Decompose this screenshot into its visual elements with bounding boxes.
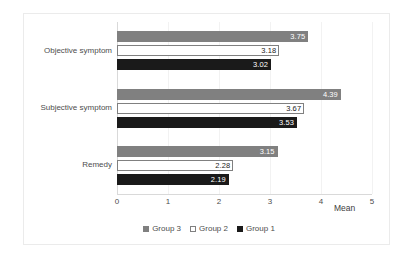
bar-group-2[interactable] — [117, 45, 279, 56]
x-tick-label: 1 — [166, 197, 170, 206]
bar-chart-figure: Objective symptomSubjective symptomRemed… — [0, 0, 418, 260]
bar-group-3[interactable] — [117, 31, 308, 42]
bar-row: 2.28 — [117, 160, 372, 171]
x-axis-line — [117, 194, 372, 195]
bar-group: 3.152.282.19 — [117, 146, 372, 185]
bar-row: 3.15 — [117, 146, 372, 157]
bar-value-label: 2.19 — [206, 174, 226, 185]
category-label: Remedy — [4, 160, 112, 169]
x-tick-label: 3 — [268, 197, 272, 206]
bar-value-label: 4.39 — [318, 89, 338, 100]
bar-group: 4.393.673.53 — [117, 89, 372, 128]
bar-group-1[interactable] — [117, 117, 297, 128]
category-axis-labels: Objective symptomSubjective symptomRemed… — [0, 22, 112, 194]
x-tick-label: 0 — [115, 197, 119, 206]
bar-value-label: 3.53 — [274, 117, 294, 128]
legend-item-group-3[interactable]: Group 3 — [143, 224, 181, 233]
bar-row: 3.53 — [117, 117, 372, 128]
bar-group-2[interactable] — [117, 103, 304, 114]
bar-value-label: 2.28 — [210, 160, 230, 171]
bar-group-3[interactable] — [117, 89, 341, 100]
legend-label: Group 2 — [199, 224, 228, 233]
x-tick-label: 2 — [217, 197, 221, 206]
gridline — [372, 22, 373, 194]
bar-row: 3.02 — [117, 59, 372, 70]
chart-legend: Group 3Group 2Group 1 — [0, 224, 418, 233]
bar-value-label: 3.75 — [285, 31, 305, 42]
category-label: Objective symptom — [4, 46, 112, 55]
legend-item-group-1[interactable]: Group 1 — [237, 224, 275, 233]
bar-row: 3.75 — [117, 31, 372, 42]
legend-item-group-2[interactable]: Group 2 — [190, 224, 228, 233]
black-square-icon — [237, 226, 243, 232]
x-axis-title: Mean — [334, 203, 355, 213]
bar-row: 3.67 — [117, 103, 372, 114]
white-square-icon — [190, 226, 196, 232]
category-label: Subjective symptom — [4, 103, 112, 112]
gray-square-icon — [143, 226, 149, 232]
bar-value-label: 3.15 — [255, 146, 275, 157]
x-tick-label: 4 — [319, 197, 323, 206]
bar-group-3[interactable] — [117, 146, 278, 157]
x-tick-label: 5 — [370, 197, 374, 206]
legend-label: Group 1 — [246, 224, 275, 233]
bar-value-label: 3.02 — [248, 59, 268, 70]
legend-label: Group 3 — [152, 224, 181, 233]
bar-row: 3.18 — [117, 45, 372, 56]
bar-value-label: 3.18 — [256, 45, 276, 56]
plot-area: 3.753.183.024.393.673.533.152.282.19 — [117, 22, 372, 194]
bar-group: 3.753.183.02 — [117, 31, 372, 70]
bar-row: 2.19 — [117, 174, 372, 185]
bar-row: 4.39 — [117, 89, 372, 100]
bar-value-label: 3.67 — [281, 103, 301, 114]
